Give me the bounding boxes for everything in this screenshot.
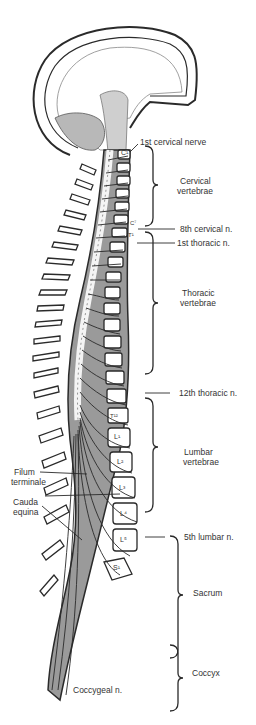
label-filum-terminale-line2: terminale bbox=[11, 477, 46, 487]
mark-t12: T¹² bbox=[110, 411, 118, 421]
mark-l2: L² bbox=[117, 457, 123, 467]
label-thoracic-vertebrae-line2: vertebrae bbox=[180, 298, 216, 308]
label-cauda-equina-line2: equina bbox=[13, 507, 39, 517]
label-filum-terminale-line1: Filum bbox=[14, 467, 35, 477]
mark-l1: L¹ bbox=[114, 432, 120, 442]
label-twelfth-thoracic-n: 12th thoracic n. bbox=[179, 388, 237, 398]
mark-t1: T¹ bbox=[128, 230, 134, 240]
mark-l4: L⁴ bbox=[120, 509, 127, 519]
region-brackets bbox=[145, 146, 183, 711]
label-cauda-equina-line1: Cauda bbox=[13, 497, 38, 507]
anatomy-illustration bbox=[0, 0, 256, 725]
cerebellum bbox=[55, 113, 105, 150]
label-lumbar-vertebrae-line2: vertebrae bbox=[183, 457, 219, 467]
spinal-anatomy-diagram: 1st cervical nerve Cervical vertebrae 8t… bbox=[0, 0, 256, 725]
label-cervical-vertebrae-line1: Cervical bbox=[180, 176, 211, 186]
mark-l3: L³ bbox=[119, 483, 125, 493]
mark-l5: L⁵ bbox=[120, 535, 127, 545]
label-lumbar-vertebrae-line1: Lumbar bbox=[184, 447, 213, 457]
label-coccyx: Coccyx bbox=[192, 668, 220, 678]
label-first-cervical-nerve: 1st cervical nerve bbox=[140, 137, 206, 147]
mark-c1: C¹ bbox=[121, 148, 128, 158]
label-cervical-vertebrae-line2: vertebrae bbox=[177, 186, 213, 196]
label-first-thoracic-n: 1st thoracic n. bbox=[177, 238, 230, 248]
label-fifth-lumbar-n: 5th lumbar n. bbox=[184, 532, 234, 542]
label-thoracic-vertebrae-line1: Thoracic bbox=[182, 288, 215, 298]
label-coccygeal-n: Coccygeal n. bbox=[73, 685, 122, 695]
mark-s1: S¹ bbox=[113, 563, 120, 573]
label-eighth-cervical-n: 8th cervical n. bbox=[180, 224, 232, 234]
label-sacrum: Sacrum bbox=[193, 588, 222, 598]
mark-c7: C⁷ bbox=[130, 218, 137, 228]
